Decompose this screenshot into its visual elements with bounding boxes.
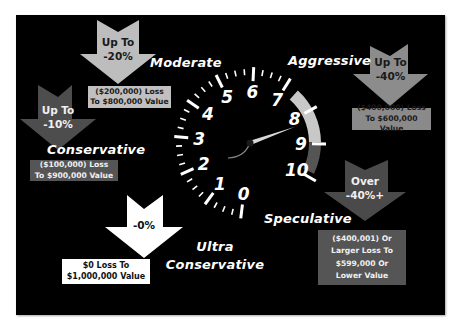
ultra-conservative-label-line2: Conservative — [160, 256, 270, 274]
aggressive-label: Aggressive — [288, 53, 371, 68]
conservative-arrow-line2: -10% — [20, 117, 96, 131]
gauge-number-5: 5 — [221, 87, 233, 107]
moderate-arrow-line1: Up To — [80, 35, 156, 49]
ultra-conservative-box-line2: $1,000,000 Value — [64, 272, 148, 283]
aggressive-box-line2: To $600,000 Value — [354, 114, 429, 135]
ultra-conservative-label-line1: Ultra — [160, 238, 270, 256]
moderate-arrow-line2: -20% — [80, 49, 156, 63]
moderate-label: Moderate — [150, 55, 222, 70]
ultra-conservative-loss-box: $0 Loss To $1,000,000 Value — [62, 259, 150, 284]
speculative-box-line4: Lower Value — [320, 270, 404, 283]
ultra-conservative-label: Ultra Conservative — [160, 238, 270, 274]
gauge-number-0: 0 — [238, 184, 250, 204]
speculative-label: Speculative — [264, 211, 352, 226]
gauge-number-10: 10 — [285, 160, 309, 180]
conservative-loss-box: ($100,000) Loss To $900,000 Value — [30, 160, 118, 181]
gauge-number-6: 6 — [247, 82, 259, 102]
gauge-needle — [228, 127, 295, 158]
speculative-box-line1: ($400,001) Or — [320, 233, 404, 246]
aggressive-loss-box: ($400,000) Loss To $600,000 Value — [352, 108, 431, 130]
speculative-box-line3: $599,000 Or — [320, 258, 404, 271]
moderate-arrow: Up To -20% — [80, 20, 156, 84]
gauge-number-8: 8 — [289, 109, 301, 129]
moderate-box-line2: To $800,000 Value — [90, 97, 169, 108]
speculative-arrow-line1: Over — [324, 174, 406, 188]
gauge-number-4: 4 — [201, 104, 214, 124]
speculative-arrow-line2: -40%+ — [324, 188, 406, 202]
gauge-number-9: 9 — [295, 134, 307, 154]
conservative-box-line2: To $900,000 Value — [32, 171, 116, 182]
ultra-conservative-box-line1: $0 Loss To — [64, 261, 148, 272]
speculative-box-line2: Larger Loss To — [320, 245, 404, 258]
conservative-label: Conservative — [47, 142, 145, 157]
conservative-box-line1: ($100,000) Loss — [32, 160, 116, 171]
aggressive-box-line1: ($400,000) Loss — [354, 103, 429, 114]
moderate-box-line1: ($200,000) Loss — [90, 87, 169, 98]
gauge-number-2: 2 — [198, 154, 210, 174]
conservative-arrow: Up To -10% — [20, 85, 96, 150]
gauge-number-1: 1 — [214, 174, 226, 194]
ultra-conservative-arrow-line1: -0% — [105, 218, 183, 232]
moderate-loss-box: ($200,000) Loss To $800,000 Value — [88, 86, 171, 108]
aggressive-arrow-line2: -40% — [353, 69, 428, 83]
speculative-loss-box: ($400,001) Or Larger Loss To $599,000 Or… — [318, 230, 406, 285]
gauge-number-3: 3 — [193, 129, 205, 149]
conservative-arrow-line1: Up To — [20, 103, 96, 117]
gauge-number-7: 7 — [271, 90, 283, 110]
